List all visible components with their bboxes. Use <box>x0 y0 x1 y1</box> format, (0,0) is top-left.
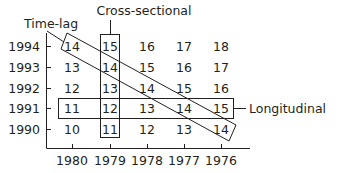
cell: 11 <box>64 101 80 116</box>
y-label-1990: 1990 <box>8 122 40 137</box>
cell: 18 <box>213 39 229 54</box>
cell: 14 <box>213 122 229 137</box>
cell: 16 <box>139 39 155 54</box>
x-label-1980: 1980 <box>56 153 88 168</box>
x-label-1979: 1979 <box>94 153 126 168</box>
y-label-1991: 1991 <box>8 101 40 116</box>
cell: 16 <box>176 60 192 75</box>
cell: 13 <box>102 81 118 96</box>
x-label-1976: 1976 <box>205 153 237 168</box>
cell: 13 <box>176 122 192 137</box>
y-label-1993: 1993 <box>8 60 40 75</box>
y-label-1994: 1994 <box>8 39 40 54</box>
cell: 16 <box>213 81 229 96</box>
time-lag-label: Time-lag <box>23 16 78 31</box>
cell: 15 <box>102 39 118 54</box>
age-grid: 14 15 16 17 18 13 14 15 16 17 12 13 14 1… <box>64 39 229 137</box>
cell: 14 <box>139 81 155 96</box>
time-lag-connector <box>47 31 64 42</box>
cell: 17 <box>213 60 229 75</box>
cell: 17 <box>176 39 192 54</box>
x-label-1977: 1977 <box>168 153 200 168</box>
cell: 13 <box>139 101 155 116</box>
cell: 11 <box>102 122 118 137</box>
cross-sectional-label: Cross-sectional <box>97 3 192 18</box>
longitudinal-label: Longitudinal <box>249 101 326 116</box>
x-label-1978: 1978 <box>131 153 163 168</box>
cell: 13 <box>64 60 80 75</box>
cell: 12 <box>102 101 118 116</box>
cell: 12 <box>64 81 80 96</box>
y-label-1992: 1992 <box>8 81 40 96</box>
x-ticks <box>73 144 222 148</box>
cell: 12 <box>139 122 155 137</box>
cell: 10 <box>64 122 80 137</box>
cell: 15 <box>139 60 155 75</box>
research-design-diagram: 1994 1993 1992 1991 1990 1980 1979 1978 … <box>0 0 340 173</box>
